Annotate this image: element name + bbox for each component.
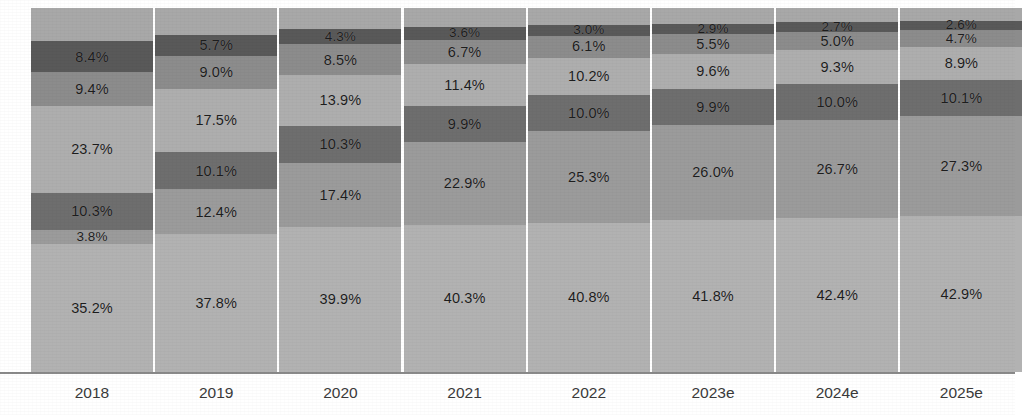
segment-value-label: 10.3% [320,137,362,152]
x-axis-labels: 201820192020202120222023e2024e2025e [0,378,1015,408]
segment-value-label: 5.0% [820,34,853,49]
bar-segment[interactable]: 13.9% [279,75,401,126]
segment-value-label: 40.3% [444,291,486,306]
x-tick-2023e: 2023e [652,384,774,402]
segment-value-label: 9.9% [696,100,729,115]
bar-segment[interactable]: 26.0% [652,125,774,220]
bar-segment[interactable]: 39.9% [279,227,401,372]
bar-segment[interactable]: 3.6% [404,27,526,40]
bar-segment[interactable]: 10.3% [31,193,153,230]
segment-value-label: 25.3% [568,170,610,185]
bar-segment[interactable]: 2.6% [900,21,1022,30]
bar-2025e[interactable]: 2.6%4.7%8.9%10.1%27.3%42.9% [900,8,1022,372]
bar-2020[interactable]: 4.3%8.5%13.9%10.3%17.4%39.9% [279,8,401,372]
bar-segment[interactable]: 9.9% [652,89,774,125]
bar-2021[interactable]: 3.6%6.7%11.4%9.9%22.9%40.3% [404,8,526,372]
segment-value-label: 4.7% [946,32,977,46]
bar-segment[interactable]: 8.5% [279,44,401,75]
bar-segment[interactable]: 40.3% [404,225,526,372]
bar-segment[interactable]: 42.9% [900,216,1022,372]
segment-value-label: 8.4% [75,50,108,65]
bar-segment[interactable]: 26.7% [776,120,898,217]
x-tick-2018: 2018 [31,384,153,402]
bar-segment[interactable]: 40.8% [528,223,650,372]
bar-2019[interactable]: 5.7%9.0%17.5%10.1%12.4%37.8% [155,8,277,372]
bar-segment[interactable]: 3.0% [528,25,650,36]
segment-value-label: 13.9% [320,93,362,108]
segment-value-label: 6.7% [448,45,481,60]
bar-segment[interactable]: 10.0% [528,95,650,131]
segment-value-label: 9.0% [199,65,232,80]
plot-area: 8.4%9.4%23.7%10.3%3.8%35.2%5.7%9.0%17.5%… [0,0,1015,372]
x-tick-2025e: 2025e [900,384,1022,402]
bar-segment[interactable]: 5.5% [652,34,774,54]
bar-2024e[interactable]: 2.7%5.0%9.3%10.0%26.7%42.4% [776,8,898,372]
segment-value-label: 5.5% [696,37,729,52]
bar-segment[interactable]: 10.2% [528,58,650,95]
segment-value-label: 23.7% [71,142,113,157]
bar-segment[interactable] [279,8,401,29]
segment-value-label: 41.8% [692,289,734,304]
segment-value-label: 26.0% [692,165,734,180]
bar-segment[interactable]: 4.3% [279,29,401,45]
segment-value-label: 10.3% [71,204,113,219]
bar-segment[interactable]: 10.0% [776,84,898,120]
bar-segment[interactable] [31,8,153,41]
bar-segment[interactable]: 8.9% [900,47,1022,79]
bar-segment[interactable]: 9.4% [31,72,153,106]
bar-segment[interactable]: 2.7% [776,22,898,32]
bar-segment[interactable]: 37.8% [155,234,277,372]
bar-segment[interactable]: 9.9% [404,106,526,142]
segment-value-label: 10.1% [941,91,983,106]
bar-2018[interactable]: 8.4%9.4%23.7%10.3%3.8%35.2% [31,8,153,372]
bar-segment[interactable]: 17.4% [279,163,401,226]
bar-segment[interactable]: 9.6% [652,54,774,89]
segment-value-label: 17.4% [320,188,362,203]
bar-segment[interactable]: 42.4% [776,218,898,372]
bar-segment[interactable]: 27.3% [900,116,1022,215]
segment-value-label: 11.4% [444,78,485,93]
bar-segment[interactable]: 3.8% [31,230,153,244]
bar-segment[interactable]: 9.0% [155,56,277,89]
bar-segment[interactable]: 2.9% [652,24,774,35]
bar-segment[interactable]: 6.7% [404,40,526,64]
bar-segment[interactable]: 22.9% [404,142,526,225]
bar-segment[interactable] [155,8,277,35]
segment-value-label: 35.2% [71,301,113,316]
segment-value-label: 10.2% [568,69,610,84]
bar-segment[interactable]: 35.2% [31,244,153,372]
x-axis-line [0,372,1015,374]
bar-2022[interactable]: 3.0%6.1%10.2%10.0%25.3%40.8% [528,8,650,372]
bar-segment[interactable]: 6.1% [528,36,650,58]
bar-segment[interactable]: 5.0% [776,32,898,50]
segment-value-label: 5.7% [199,38,232,53]
bar-segment[interactable]: 17.5% [155,89,277,153]
bar-segment[interactable]: 11.4% [404,64,526,105]
segment-value-label: 3.8% [76,230,107,244]
bar-segment[interactable]: 10.1% [900,80,1022,117]
bar-segment[interactable]: 5.7% [155,35,277,56]
x-tick-2019: 2019 [155,384,277,402]
segment-value-label: 42.9% [941,287,983,302]
bar-segment[interactable]: 23.7% [31,106,153,192]
x-tick-2022: 2022 [528,384,650,402]
x-tick-2024e: 2024e [776,384,898,402]
bar-2023e[interactable]: 2.9%5.5%9.6%9.9%26.0%41.8% [652,8,774,372]
bar-segment[interactable]: 12.4% [155,189,277,234]
bar-segment[interactable]: 10.1% [155,152,277,189]
bar-segment[interactable]: 25.3% [528,131,650,223]
bar-segment[interactable]: 10.3% [279,126,401,163]
bar-segment[interactable]: 9.3% [776,50,898,84]
segment-value-label: 3.6% [449,27,480,41]
bar-segment[interactable] [404,8,526,27]
segment-value-label: 9.6% [696,64,729,79]
bar-segment[interactable]: 8.4% [31,41,153,72]
x-tick-2021: 2021 [404,384,526,402]
x-tick-2020: 2020 [279,384,401,402]
bar-segment[interactable]: 4.7% [900,30,1022,47]
segment-value-label: 37.8% [195,296,237,311]
segment-value-label: 4.3% [325,30,356,44]
bar-segment[interactable]: 41.8% [652,220,774,372]
segment-value-label: 8.9% [945,56,978,71]
